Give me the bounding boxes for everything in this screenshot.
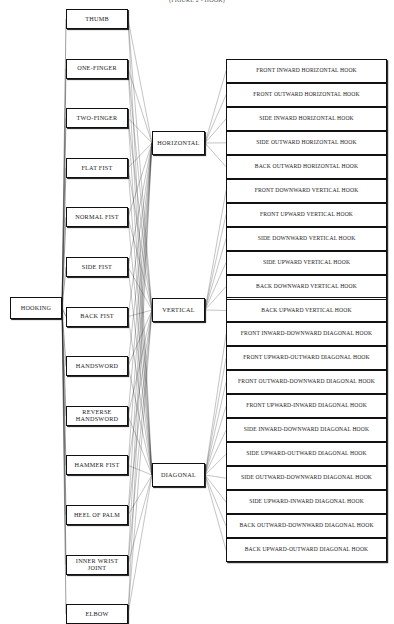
surface-node-label: SIDE FIST — [81, 264, 113, 271]
plane-node-label: HORIZONTAL — [156, 140, 200, 147]
hook-node-label: SIDE OUTWARD-DOWNWARD DIAGONAL HOOK — [240, 475, 373, 481]
hook-node[interactable]: FRONT UPWARD-OUTWARD DIAGONAL HOOK — [226, 346, 387, 370]
hook-node[interactable]: BACK DOWNWARD VERTICAL HOOK — [226, 275, 387, 299]
surface-node-label: ONE-FINGER — [76, 65, 118, 72]
plane-node-label: DIAGONAL — [160, 472, 197, 479]
hook-node-label: BACK UPWARD-OUTWARD DIAGONAL HOOK — [244, 547, 370, 553]
hook-node-label: SIDE DOWNWARD VERTICAL HOOK — [257, 236, 357, 242]
hook-node[interactable]: SIDE UPWARD-OUTWARD DIAGONAL HOOK — [226, 442, 387, 466]
surface-node[interactable]: ONE-FINGER — [66, 59, 128, 79]
surface-node[interactable]: SIDE FIST — [66, 257, 128, 277]
hook-node[interactable]: FRONT OUTWARD HORIZONTAL HOOK — [226, 83, 387, 107]
hook-node[interactable]: FRONT INWARD HORIZONTAL HOOK — [226, 59, 387, 83]
hook-node[interactable]: SIDE OUTWARD HORIZONTAL HOOK — [226, 131, 387, 155]
hook-node[interactable]: SIDE DOWNWARD VERTICAL HOOK — [226, 227, 387, 251]
hook-node[interactable]: BACK OUTWARD HORIZONTAL HOOK — [226, 155, 387, 179]
hook-node-label: FRONT OUTWARD-DOWNWARD DIAGONAL HOOK — [237, 379, 376, 385]
hook-node-label: SIDE INWARD HORIZONTAL HOOK — [258, 116, 355, 122]
surface-node[interactable]: INNER WRISTJOINT — [66, 555, 128, 575]
surface-node[interactable]: ELBOW — [66, 604, 128, 624]
surface-node-label: FLAT FIST — [80, 165, 113, 172]
plane-node[interactable]: DIAGONAL — [152, 463, 205, 487]
surface-node-label: TWO-FINGER — [76, 115, 119, 122]
hook-node[interactable]: SIDE UPWARD-INWARD DIAGONAL HOOK — [226, 490, 387, 514]
surface-node[interactable]: HEEL OF PALM — [66, 505, 128, 525]
hook-node[interactable]: SIDE INWARD HORIZONTAL HOOK — [226, 107, 387, 131]
plane-node-label: VERTICAL — [161, 307, 196, 314]
hook-node-label: BACK DOWNWARD VERTICAL HOOK — [255, 284, 358, 290]
surface-node[interactable]: BACK FIST — [66, 307, 128, 327]
hook-node-label: SIDE UPWARD VERTICAL HOOK — [262, 260, 351, 266]
surface-node-label: HAMMER FIST — [74, 462, 121, 469]
surface-node-label: NORMAL FIST — [74, 214, 120, 221]
surface-node[interactable]: TWO-FINGER — [66, 108, 128, 128]
surface-node-label: THUMB — [84, 16, 110, 23]
hook-node-label: SIDE INWARD-DOWNWARD DIAGONAL HOOK — [243, 427, 370, 433]
surface-node[interactable]: NORMAL FIST — [66, 207, 128, 227]
surface-node[interactable]: HANDSWORD — [66, 356, 128, 376]
hook-node[interactable]: FRONT DOWNWARD VERTICAL HOOK — [226, 179, 387, 203]
plane-node[interactable]: HORIZONTAL — [152, 131, 205, 155]
hook-node[interactable]: SIDE UPWARD VERTICAL HOOK — [226, 251, 387, 275]
hook-node[interactable]: SIDE INWARD-DOWNWARD DIAGONAL HOOK — [226, 418, 387, 442]
surface-node-label: HEEL OF PALM — [73, 512, 121, 519]
hook-node[interactable]: BACK UPWARD VERTICAL HOOK — [226, 299, 387, 323]
hook-node-label: BACK OUTWARD HORIZONTAL HOOK — [254, 164, 359, 170]
hook-node-label: FRONT OUTWARD HORIZONTAL HOOK — [252, 92, 360, 98]
plane-node[interactable]: VERTICAL — [152, 298, 205, 322]
hook-node[interactable]: FRONT INWARD-DOWNWARD DIAGONAL HOOK — [226, 322, 387, 346]
hook-node[interactable]: FRONT OUTWARD-DOWNWARD DIAGONAL HOOK — [226, 370, 387, 394]
hook-node-label: SIDE UPWARD-OUTWARD DIAGONAL HOOK — [245, 451, 368, 457]
hook-node[interactable]: BACK UPWARD-OUTWARD DIAGONAL HOOK — [226, 538, 387, 562]
hook-node-label: SIDE OUTWARD HORIZONTAL HOOK — [255, 140, 357, 146]
surface-node[interactable]: REVERSEHANDSWORD — [66, 406, 128, 426]
surface-node[interactable]: FLAT FIST — [66, 158, 128, 178]
surface-node-label: HANDSWORD — [75, 363, 119, 370]
hook-node-label: FRONT INWARD HORIZONTAL HOOK — [255, 68, 358, 74]
surface-node-label: ELBOW — [84, 611, 109, 618]
surface-node-label: REVERSEHANDSWORD — [75, 409, 119, 422]
hook-node-label: FRONT DOWNWARD VERTICAL HOOK — [254, 188, 360, 194]
surface-node-label: INNER WRISTJOINT — [75, 558, 119, 571]
root-node-label: HOOKING — [20, 305, 53, 312]
hook-node-label: BACK UPWARD VERTICAL HOOK — [260, 308, 352, 314]
hook-node-label: BACK OUTWARD-DOWNWARD DIAGONAL HOOK — [238, 523, 374, 529]
hook-node-label: FRONT UPWARD-OUTWARD DIAGONAL HOOK — [242, 355, 370, 361]
surface-node-label: BACK FIST — [79, 313, 115, 320]
hook-node-label: FRONT UPWARD VERTICAL HOOK — [259, 212, 354, 218]
root-node-hooking[interactable]: HOOKING — [10, 297, 62, 319]
hook-node-label: FRONT UPWARD-INWARD DIAGONAL HOOK — [245, 403, 368, 409]
hook-node[interactable]: FRONT UPWARD VERTICAL HOOK — [226, 203, 387, 227]
hook-node-label: SIDE UPWARD-INWARD DIAGONAL HOOK — [248, 499, 365, 505]
hook-node[interactable]: BACK OUTWARD-DOWNWARD DIAGONAL HOOK — [226, 514, 387, 538]
surface-node[interactable]: HAMMER FIST — [66, 455, 128, 475]
hook-node-label: FRONT INWARD-DOWNWARD DIAGONAL HOOK — [240, 331, 373, 337]
hook-node[interactable]: SIDE OUTWARD-DOWNWARD DIAGONAL HOOK — [226, 466, 387, 490]
hook-node[interactable]: FRONT UPWARD-INWARD DIAGONAL HOOK — [226, 394, 387, 418]
surface-node[interactable]: THUMB — [66, 9, 128, 29]
